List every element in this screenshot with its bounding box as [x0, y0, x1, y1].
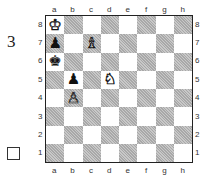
square-g5 — [156, 71, 174, 89]
black-pawn-icon: ♟ — [67, 72, 80, 87]
rank-label: 1 — [38, 144, 42, 162]
file-label: c — [82, 166, 100, 175]
square-d7 — [101, 34, 119, 52]
square-c7: ♗ — [83, 34, 101, 52]
square-h3 — [174, 107, 192, 125]
square-h8 — [174, 16, 192, 34]
square-a6: ♚ — [46, 53, 64, 71]
square-d1 — [101, 144, 119, 162]
square-h1 — [174, 144, 192, 162]
square-h2 — [174, 126, 192, 144]
square-d8 — [101, 16, 119, 34]
square-e6 — [119, 53, 137, 71]
square-a1 — [46, 144, 64, 162]
square-e3 — [119, 107, 137, 125]
square-a3 — [46, 107, 64, 125]
square-b8 — [64, 16, 82, 34]
square-b2 — [64, 126, 82, 144]
square-c5 — [83, 71, 101, 89]
square-g4 — [156, 89, 174, 107]
square-h4 — [174, 89, 192, 107]
rank-label: 3 — [38, 107, 42, 125]
square-b4: ♙ — [64, 89, 82, 107]
white-pawn-icon: ♙ — [67, 91, 80, 106]
square-f6 — [137, 53, 155, 71]
square-g3 — [156, 107, 174, 125]
square-g2 — [156, 126, 174, 144]
rank-label: 3 — [195, 107, 199, 125]
rank-labels-right: 8 7 6 5 4 3 2 1 — [195, 15, 199, 162]
square-d5: ♘ — [101, 71, 119, 89]
square-e2 — [119, 126, 137, 144]
rank-label: 2 — [195, 125, 199, 143]
file-label: a — [45, 166, 63, 175]
file-label: e — [119, 5, 137, 14]
rank-label: 4 — [195, 89, 199, 107]
square-b7 — [64, 34, 82, 52]
square-a5 — [46, 71, 64, 89]
file-label: g — [155, 166, 173, 175]
square-f7 — [137, 34, 155, 52]
square-g1 — [156, 144, 174, 162]
white-knight-icon: ♘ — [103, 72, 116, 87]
rank-label: 1 — [195, 144, 199, 162]
file-label: f — [137, 5, 155, 14]
square-f5 — [137, 71, 155, 89]
square-e4 — [119, 89, 137, 107]
rank-label: 5 — [195, 70, 199, 88]
square-g6 — [156, 53, 174, 71]
square-a8: ♔ — [46, 16, 64, 34]
square-f1 — [137, 144, 155, 162]
square-g7 — [156, 34, 174, 52]
file-label: c — [82, 5, 100, 14]
rank-labels-left: 8 7 6 5 4 3 2 1 — [38, 15, 42, 162]
file-label: e — [119, 166, 137, 175]
square-a4 — [46, 89, 64, 107]
file-label: a — [45, 5, 63, 14]
square-d4 — [101, 89, 119, 107]
square-c2 — [83, 126, 101, 144]
square-e1 — [119, 144, 137, 162]
square-c6 — [83, 53, 101, 71]
square-h6 — [174, 53, 192, 71]
square-h7 — [174, 34, 192, 52]
rank-label: 6 — [195, 52, 199, 70]
rank-label: 5 — [38, 70, 42, 88]
rank-label: 8 — [38, 15, 42, 33]
square-e7 — [119, 34, 137, 52]
square-b6 — [64, 53, 82, 71]
file-label: h — [174, 5, 192, 14]
square-c3 — [83, 107, 101, 125]
square-b1 — [64, 144, 82, 162]
square-g8 — [156, 16, 174, 34]
square-a2 — [46, 126, 64, 144]
rank-label: 7 — [195, 33, 199, 51]
black-king-icon: ♚ — [48, 54, 61, 69]
square-c8 — [83, 16, 101, 34]
file-label: f — [137, 166, 155, 175]
black-pawn-icon: ♟ — [48, 36, 61, 51]
white-bishop-icon: ♗ — [85, 36, 98, 51]
square-f4 — [137, 89, 155, 107]
rank-label: 2 — [38, 125, 42, 143]
square-d6 — [101, 53, 119, 71]
side-to-move-indicator — [7, 147, 20, 160]
white-king-icon: ♔ — [48, 18, 61, 33]
rank-label: 7 — [38, 33, 42, 51]
rank-label: 6 — [38, 52, 42, 70]
square-d3 — [101, 107, 119, 125]
square-d2 — [101, 126, 119, 144]
square-f3 — [137, 107, 155, 125]
square-c1 — [83, 144, 101, 162]
file-label: d — [100, 166, 118, 175]
file-label: h — [174, 166, 192, 175]
file-label: b — [63, 166, 81, 175]
square-b5: ♟ — [64, 71, 82, 89]
file-labels-top: a b c d e f g h — [45, 5, 192, 14]
file-label: g — [155, 5, 173, 14]
rank-label: 8 — [195, 15, 199, 33]
square-b3 — [64, 107, 82, 125]
rank-label: 4 — [38, 89, 42, 107]
square-h5 — [174, 71, 192, 89]
puzzle-number: 3 — [7, 32, 16, 52]
